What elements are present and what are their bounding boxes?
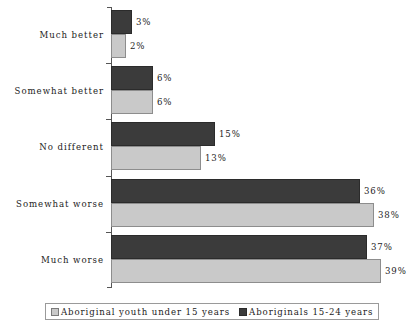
bar-value-label: 2% (130, 41, 145, 51)
bar-value-label: 38% (378, 210, 400, 220)
horizontal-bar-chart: Much better 3% 2% Somewhat better 6% 6% (0, 0, 420, 328)
bar-group-somewhat-worse: Somewhat worse 36% 38% (111, 176, 411, 232)
bar-aboriginal-youth-under-15 (111, 34, 126, 58)
bar-value-label: 15% (219, 129, 241, 139)
chart-legend: Aboriginal youth under 15 years Aborigin… (45, 303, 379, 320)
bar-group-much-worse: Much worse 37% 39% (111, 232, 411, 288)
bar-value-label: 37% (371, 242, 393, 252)
bar-aboriginals-15-24 (111, 10, 132, 34)
bar-value-label: 13% (205, 153, 227, 163)
plot-area: Much better 3% 2% Somewhat better 6% 6% (111, 7, 411, 288)
bar-value-label: 6% (157, 73, 172, 83)
category-label: Somewhat worse (16, 199, 104, 209)
bar-aboriginal-youth-under-15 (111, 203, 374, 227)
dark-swatch-icon (239, 308, 247, 316)
legend-label: Aboriginal youth under 15 years (61, 307, 230, 317)
bar-value-label: 3% (136, 17, 151, 27)
legend-label: Aboriginals 15-24 years (249, 307, 373, 317)
legend-item-aboriginals-15-24: Aboriginals 15-24 years (239, 307, 373, 317)
category-label: Much worse (41, 255, 104, 265)
legend-item-aboriginal-youth-under-15: Aboriginal youth under 15 years (51, 307, 230, 317)
category-label: Somewhat better (15, 86, 104, 96)
bar-value-label: 36% (364, 186, 386, 196)
bar-group-somewhat-better: Somewhat better 6% 6% (111, 63, 411, 119)
bar-group-no-different: No different 15% 13% (111, 119, 411, 175)
bar-aboriginal-youth-under-15 (111, 146, 201, 170)
bar-aboriginal-youth-under-15 (111, 90, 153, 114)
bar-aboriginals-15-24 (111, 235, 367, 259)
bar-value-label: 39% (385, 266, 407, 276)
bar-value-label: 6% (157, 97, 172, 107)
bar-aboriginals-15-24 (111, 122, 215, 146)
category-label: Much better (39, 30, 104, 40)
bar-aboriginal-youth-under-15 (111, 259, 381, 283)
bar-aboriginals-15-24 (111, 179, 360, 203)
bar-aboriginals-15-24 (111, 66, 153, 90)
bar-group-much-better: Much better 3% 2% (111, 7, 411, 63)
category-label: No different (39, 142, 104, 152)
light-swatch-icon (51, 308, 59, 316)
